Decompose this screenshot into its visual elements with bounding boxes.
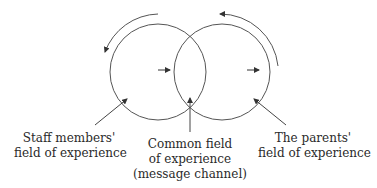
parents-pointer-arrow [254,99,286,125]
staff-field-label: Staff members' field of experience [14,131,124,161]
parents-label-line1: The parents' [258,131,368,146]
parents-field-circle [174,24,270,120]
parents-field-label: The parents' field of experience [258,131,368,161]
common-label-line1: Common field [133,137,247,152]
common-label-line2: of experience [133,152,247,167]
parents-label-line2: field of experience [258,146,368,161]
staff-label-line1: Staff members' [14,131,124,146]
staff-field-circle [110,24,206,120]
common-label-line3: (message channel) [133,167,247,182]
staff-pointer-arrow [95,99,127,125]
right-cycle-arrow [220,14,278,66]
common-field-label: Common field of experience (message chan… [133,137,247,182]
staff-label-line2: field of experience [14,146,124,161]
left-cycle-arrow [105,14,158,52]
